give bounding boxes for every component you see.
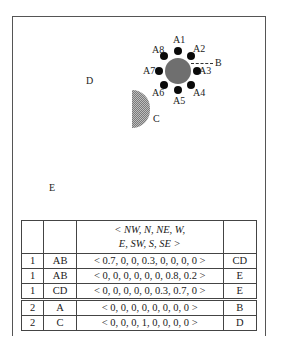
cell-object: CD xyxy=(44,284,76,300)
header-step xyxy=(22,221,44,254)
cell-vector: < 0, 0, 0, 0, 0, 0, 0.8, 0.2 > xyxy=(76,269,223,284)
table-row: 1 CD < 0, 0, 0, 0, 0, 0.3, 0.7, 0 > E xyxy=(22,284,257,300)
cell-vector: < 0, 0, 0, 1, 0, 0, 0, 0 > xyxy=(76,316,223,331)
cell-object: AB xyxy=(44,254,76,269)
table-row: 1 AB < 0, 0, 0, 0, 0, 0, 0.8, 0.2 > E xyxy=(22,269,257,284)
table-header-row: < NW, N, NE, W, E, SW, S, SE > xyxy=(22,221,257,254)
cell-step: 2 xyxy=(22,316,44,331)
label-d: D xyxy=(86,76,93,86)
cell-target: CD xyxy=(223,254,256,269)
cell-target: B xyxy=(223,300,256,316)
header-vector-line2: E, SW, S, SE > xyxy=(77,237,223,251)
cell-vector: < 0, 0, 0, 0, 0, 0.3, 0.7, 0 > xyxy=(76,284,223,300)
satellite-a1 xyxy=(174,47,182,55)
label-e: E xyxy=(49,183,55,193)
header-object xyxy=(44,221,76,254)
header-target xyxy=(223,221,256,254)
cell-target: E xyxy=(223,284,256,300)
satellite-label-a4: A4 xyxy=(193,88,205,98)
satellite-label-a8: A8 xyxy=(152,45,164,55)
cell-step: 1 xyxy=(22,254,44,269)
satellite-label-a2: A2 xyxy=(193,44,205,54)
cell-target: D xyxy=(223,316,256,331)
cell-step: 1 xyxy=(22,269,44,284)
satellite-label-a3: A3 xyxy=(199,66,211,76)
cell-target: E xyxy=(223,269,256,284)
satellite-a7 xyxy=(155,67,163,75)
satellite-label-a6: A6 xyxy=(152,88,164,98)
direction-table: < NW, N, NE, W, E, SW, S, SE > 1 AB < 0.… xyxy=(21,220,257,331)
header-vector: < NW, N, NE, W, E, SW, S, SE > xyxy=(76,221,223,254)
cell-step: 1 xyxy=(22,284,44,300)
cell-object: C xyxy=(44,316,76,331)
cell-object: AB xyxy=(44,269,76,284)
satellite-label-a7: A7 xyxy=(143,66,155,76)
table-row: 1 AB < 0.7, 0, 0, 0.3, 0, 0, 0, 0 > CD xyxy=(22,254,257,269)
cell-object: A xyxy=(44,300,76,316)
cell-step: 2 xyxy=(22,300,44,316)
label-c: C xyxy=(153,114,160,124)
satellite-a5 xyxy=(174,86,182,94)
header-vector-line1: < NW, N, NE, W, xyxy=(77,223,223,237)
label-b: B xyxy=(215,58,222,68)
b-pointer-line xyxy=(191,63,213,64)
object-b-circle xyxy=(165,58,191,84)
satellite-label-a5: A5 xyxy=(173,96,185,106)
satellite-label-a1: A1 xyxy=(173,35,185,45)
cell-vector: < 0, 0, 0, 0, 0, 0, 0, 0 > xyxy=(76,300,223,316)
cell-vector: < 0.7, 0, 0, 0.3, 0, 0, 0, 0 > xyxy=(76,254,223,269)
table-row: 2 A < 0, 0, 0, 0, 0, 0, 0, 0 > B xyxy=(22,300,257,316)
table-row: 2 C < 0, 0, 0, 1, 0, 0, 0, 0 > D xyxy=(22,316,257,331)
